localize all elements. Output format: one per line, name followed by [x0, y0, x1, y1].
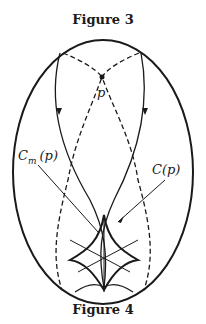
- solid-loop-right: [101, 53, 144, 288]
- arrow-pointer: [118, 216, 124, 223]
- dashed-loop-right: [102, 53, 150, 290]
- label-p: p: [97, 85, 106, 100]
- label-c: C(p): [152, 162, 180, 177]
- point-p: [100, 75, 105, 80]
- cross-line-2: [78, 240, 138, 272]
- cross-line-1: [70, 240, 130, 272]
- label-cm: Cm(p): [18, 148, 58, 166]
- bottom-arc-left: [75, 285, 104, 292]
- c-pointer: [118, 180, 165, 222]
- figure-diagram: p Cm(p) C(p): [0, 0, 206, 324]
- bottom-arc-right: [104, 285, 133, 292]
- figure-4-caption: Figure 4: [0, 302, 206, 317]
